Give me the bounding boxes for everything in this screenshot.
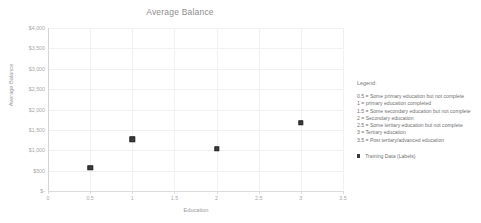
y-axis-tick-labels: $-$500$1,000$1,500$2,000$2,500$3,000$3,5…: [0, 28, 45, 191]
x-axis-tick-label: 0: [47, 195, 50, 201]
legend-entry: 1 = primary education completed: [357, 100, 479, 107]
y-axis-tick-label: $1,500: [29, 127, 45, 133]
legend: Legend: 0.5 = Some primary education but…: [357, 80, 479, 159]
legend-entry: 1.5 = Some secondary education but not c…: [357, 108, 479, 115]
legend-series-label: Training Data (Labels): [365, 153, 415, 159]
x-axis-tick-label: 2: [215, 195, 218, 201]
gridline-horizontal: [48, 48, 343, 49]
y-axis-tick-label: $4,000: [29, 25, 45, 31]
data-point: [214, 146, 219, 151]
x-axis-tick-label: 2.5: [255, 195, 262, 201]
x-axis-tick-mark: [90, 191, 91, 194]
x-axis-tick-mark: [301, 191, 302, 194]
gridline-horizontal: [48, 150, 343, 151]
gridline-vertical: [132, 28, 133, 191]
x-axis-tick-label: 1.5: [171, 195, 178, 201]
y-axis-tick-label: $3,000: [29, 66, 45, 72]
gridline-horizontal: [48, 89, 343, 90]
x-axis-tick-mark: [259, 191, 260, 194]
x-axis-tick-mark: [174, 191, 175, 194]
y-axis-title: Average Balance: [8, 50, 14, 120]
plot-area: [48, 28, 343, 191]
legend-entry-list: 0.5 = Some primary education but not com…: [357, 93, 479, 144]
x-axis-line: [48, 191, 344, 192]
x-axis-tick-label: 3: [299, 195, 302, 201]
gridline-vertical: [217, 28, 218, 191]
legend-title: Legend:: [357, 80, 479, 86]
gridline-vertical: [259, 28, 260, 191]
data-point: [298, 120, 303, 125]
x-axis-tick-label: 1: [131, 195, 134, 201]
x-axis-tick-label: 0.5: [86, 195, 93, 201]
legend-series-entry: Training Data (Labels): [357, 153, 479, 159]
data-point: [87, 165, 92, 170]
x-axis-tick-mark: [217, 191, 218, 194]
y-axis-tick-label: $3,500: [29, 45, 45, 51]
y-axis-tick-label: $1,000: [29, 147, 45, 153]
legend-entry: 2 = Secondary education: [357, 115, 479, 122]
gridline-horizontal: [48, 69, 343, 70]
x-axis-tick-mark: [132, 191, 133, 194]
chart-title: Average Balance: [0, 7, 360, 17]
x-axis-tick-label: 3.5: [339, 195, 346, 201]
legend-entry: 0.5 = Some primary education but not com…: [357, 93, 479, 100]
legend-entry: 3.5 = Post tertiary/advanced education: [357, 137, 479, 144]
x-axis-tick-mark: [48, 191, 49, 194]
x-axis-title: Education: [48, 207, 344, 213]
x-axis-tick-labels: 00.511.522.533.5: [48, 193, 344, 205]
gridline-horizontal: [48, 130, 343, 131]
gridline-horizontal: [48, 171, 343, 172]
data-point: [130, 137, 135, 142]
gridline-horizontal: [48, 28, 343, 29]
chart-container: Average Balance $-$500$1,000$1,500$2,000…: [0, 0, 481, 223]
gridline-vertical: [174, 28, 175, 191]
gridline-vertical: [343, 28, 344, 191]
y-axis-tick-label: $-: [40, 188, 45, 194]
gridline-horizontal: [48, 110, 343, 111]
y-axis-tick-label: $2,500: [29, 86, 45, 92]
y-axis-tick-label: $500: [33, 168, 45, 174]
legend-marker-icon: [357, 154, 360, 157]
legend-entry: 2.5 = Some tertiary education but not co…: [357, 122, 479, 129]
gridline-vertical: [301, 28, 302, 191]
legend-entry: 3 = Tertiary education: [357, 129, 479, 136]
x-axis-tick-mark: [343, 191, 344, 194]
y-axis-tick-label: $2,000: [29, 107, 45, 113]
y-axis-line: [48, 28, 49, 192]
